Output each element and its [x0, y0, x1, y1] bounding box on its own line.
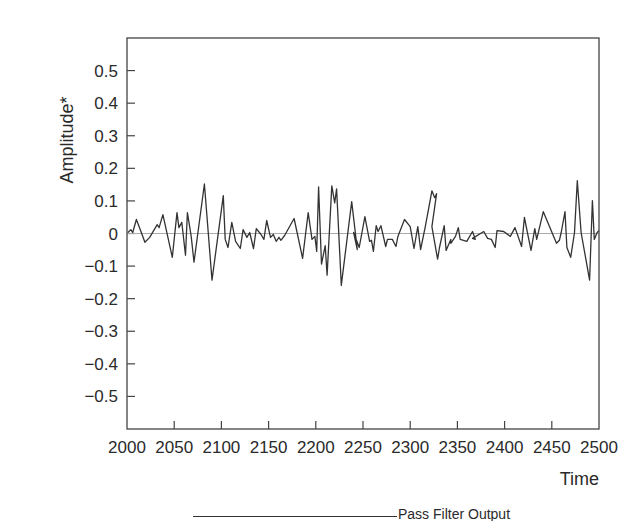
- x-tick-label: 2250: [344, 438, 382, 457]
- y-tick-label: 0.1: [94, 192, 118, 211]
- y-tick-label: −0.2: [84, 290, 118, 309]
- legend-line-swatch: [193, 516, 397, 517]
- x-tick-label: 2350: [438, 438, 476, 457]
- x-tick-label: 2100: [202, 438, 240, 457]
- y-tick-label: 0.4: [94, 94, 118, 113]
- y-tick-label: −0.1: [84, 257, 118, 276]
- y-tick-label: 0.3: [94, 127, 118, 146]
- legend-label: Pass Filter Output: [398, 507, 510, 521]
- y-tick-label: 0: [109, 225, 118, 244]
- x-tick-label: 2450: [533, 438, 571, 457]
- x-tick-label: 2000: [108, 438, 146, 457]
- x-tick-label: 2050: [155, 438, 193, 457]
- y-tick-label: 0.5: [94, 62, 118, 81]
- x-tick-label: 2200: [297, 438, 335, 457]
- x-axis-label: Time: [560, 469, 599, 489]
- y-axis-label: Amplitude*: [57, 96, 77, 183]
- y-tick-label: −0.4: [84, 355, 118, 374]
- x-tick-label: 2150: [250, 438, 288, 457]
- y-tick-label: −0.5: [84, 387, 118, 406]
- y-tick-label: 0.2: [94, 159, 118, 178]
- x-tick-label: 2400: [486, 438, 524, 457]
- x-axis-ticks: 2000205021002150220022502300235024002450…: [108, 421, 618, 457]
- x-tick-label: 2500: [580, 438, 618, 457]
- y-tick-label: −0.3: [84, 322, 118, 341]
- legend: Pass Filter Output: [193, 505, 510, 521]
- chart-canvas: 0.50.40.30.20.10−0.1−0.2−0.3−0.4−0.5 200…: [0, 0, 644, 521]
- x-tick-label: 2300: [391, 438, 429, 457]
